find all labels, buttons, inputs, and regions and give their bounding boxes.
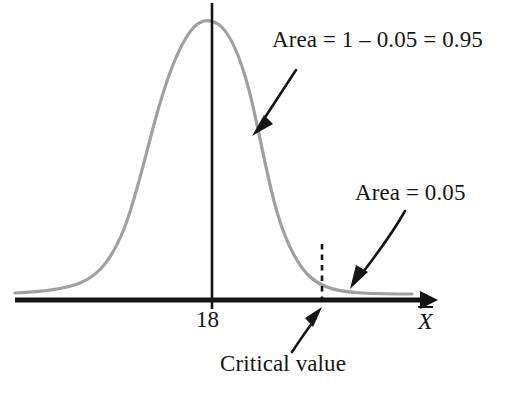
body-area-label: Area = 1 – 0.05 = 0.95 [272, 28, 483, 51]
mean-tick-label: 18 [196, 308, 219, 331]
x-axis-label-text: X [417, 309, 433, 333]
normal-curve [15, 21, 412, 294]
body-area-arrow [252, 70, 296, 136]
tail-area-label: Area = 0.05 [355, 181, 466, 204]
figure-canvas: Area = 1 – 0.05 = 0.95 Area = 0.05 Criti… [0, 0, 512, 395]
x-axis-label: X [417, 306, 433, 333]
critical-value-arrow [292, 307, 322, 352]
critical-value-label: Critical value [220, 352, 346, 375]
tail-area-arrow [350, 211, 405, 289]
